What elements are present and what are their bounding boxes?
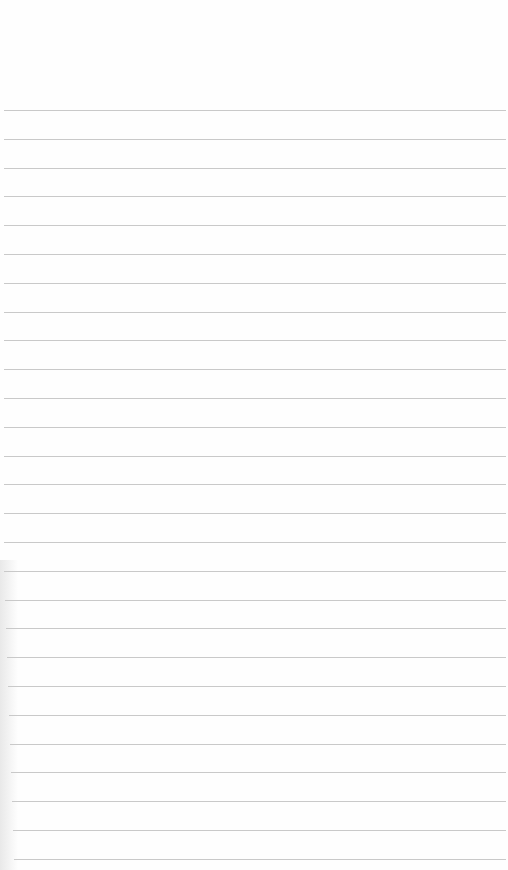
ruled-line (4, 283, 506, 284)
ruled-line (4, 427, 506, 428)
ruled-line (4, 398, 506, 399)
ruled-line (4, 369, 506, 370)
ruled-line (4, 254, 506, 255)
ruled-line (4, 168, 506, 169)
ruled-line (4, 456, 506, 457)
ruled-line (4, 110, 506, 111)
ruled-line (4, 484, 506, 485)
ruled-line (4, 571, 506, 572)
ruled-line (4, 513, 506, 514)
lined-paper-page (0, 0, 508, 870)
ruled-line (4, 196, 506, 197)
ruled-line (5, 600, 506, 601)
ruled-line (4, 340, 506, 341)
ruled-line (4, 542, 506, 543)
ruled-line (6, 628, 506, 629)
ruled-line (4, 225, 506, 226)
ruled-line (11, 772, 506, 773)
ruled-line (14, 859, 506, 860)
ruled-line (4, 312, 506, 313)
ruled-line (7, 657, 506, 658)
ruled-line (13, 830, 506, 831)
ruled-line (8, 686, 506, 687)
ruled-line (4, 139, 506, 140)
ruled-line (12, 801, 506, 802)
ruled-line (10, 744, 506, 745)
ruled-line (9, 715, 506, 716)
